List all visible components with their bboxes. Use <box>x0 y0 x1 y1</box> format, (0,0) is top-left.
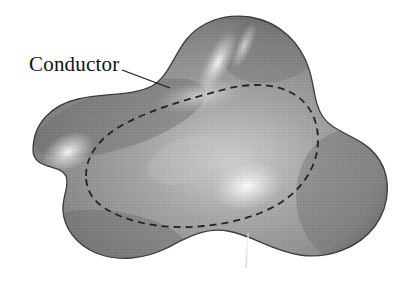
conductor-blob <box>0 0 411 295</box>
conductor-shading <box>0 0 411 295</box>
halftone-texture <box>0 0 411 295</box>
bottom-notch <box>238 231 258 295</box>
figure-canvas <box>0 0 411 295</box>
conductor-label: Conductor <box>29 54 119 75</box>
conductor-figure: Conductor <box>0 0 411 295</box>
